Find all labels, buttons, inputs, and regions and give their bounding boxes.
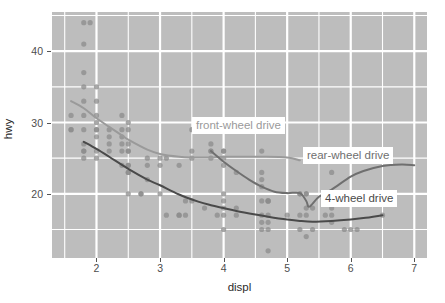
y-axis-title: hwy [2,107,14,151]
x-tick-label: 2 [81,263,111,274]
series-label-4-wheel-drive: 4-wheel drive [321,190,397,207]
y-tick-label: 30 [9,118,43,128]
x-axis-title: displ [52,281,427,293]
x-tick-mark [96,258,97,262]
x-tick-mark [224,258,225,262]
x-tick-label: 6 [336,263,366,274]
plot-canvas [52,12,427,258]
x-tick-mark [287,258,288,262]
x-tick-mark [351,258,352,262]
plot-panel [52,12,427,258]
y-tick-mark [47,51,51,52]
x-tick-label: 7 [399,263,429,274]
y-tick-label: 40 [9,46,43,56]
y-tick-mark [47,123,51,124]
x-tick-label: 3 [145,263,175,274]
series-label-front-wheel-drive: front-wheel drive [192,117,285,134]
chart-container: 203040 234567 displ hwy front-wheel driv… [0,0,445,303]
y-tick-mark [47,194,51,195]
x-tick-mark [414,258,415,262]
series-label-rear-wheel-drive: rear-wheel drive [303,147,393,164]
x-tick-label: 5 [272,263,302,274]
y-tick-label: 20 [9,189,43,199]
scatter-points-layer [68,20,385,253]
x-tick-label: 4 [209,263,239,274]
x-tick-mark [160,258,161,262]
